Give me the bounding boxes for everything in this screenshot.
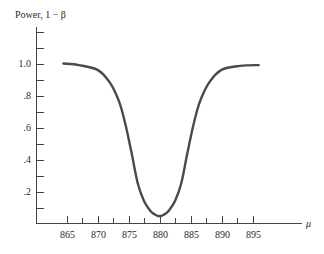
y-tick-label: .2 — [24, 186, 32, 197]
x-tick-label: 865 — [60, 229, 75, 240]
x-tick-label: 870 — [91, 229, 106, 240]
x-tick-label: 890 — [215, 229, 230, 240]
y-ticks: .2.4.6.81.0 — [19, 33, 45, 209]
y-axis-label: Power, 1 − β — [15, 9, 66, 20]
y-tick-label: .8 — [24, 90, 32, 101]
y-tick-label: 1.0 — [19, 58, 32, 69]
y-tick-label: .6 — [24, 122, 32, 133]
axes — [36, 27, 302, 224]
x-axis-label: μ — [305, 218, 311, 229]
x-ticks: 865870875880885890895 — [60, 216, 261, 240]
x-tick-label: 895 — [246, 229, 261, 240]
x-tick-label: 875 — [122, 229, 137, 240]
x-tick-label: 885 — [184, 229, 199, 240]
power-curve-chart: Power, 1 − β .2.4.6.81.0 865870875880885… — [0, 0, 324, 254]
y-tick-label: .4 — [24, 154, 32, 165]
x-tick-label: 880 — [153, 229, 168, 240]
power-curve-line — [63, 64, 258, 217]
